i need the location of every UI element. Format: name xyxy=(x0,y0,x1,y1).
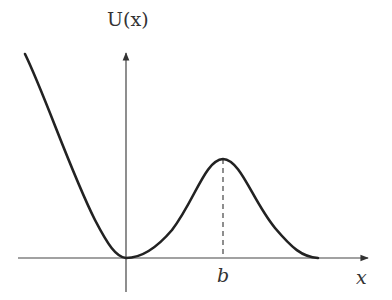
potential-energy-diagram xyxy=(0,0,392,300)
peak-position-label: b xyxy=(217,264,229,286)
y-axis-label: U(x) xyxy=(107,8,149,30)
x-axis-label: x xyxy=(356,266,367,288)
potential-curve xyxy=(25,54,318,258)
